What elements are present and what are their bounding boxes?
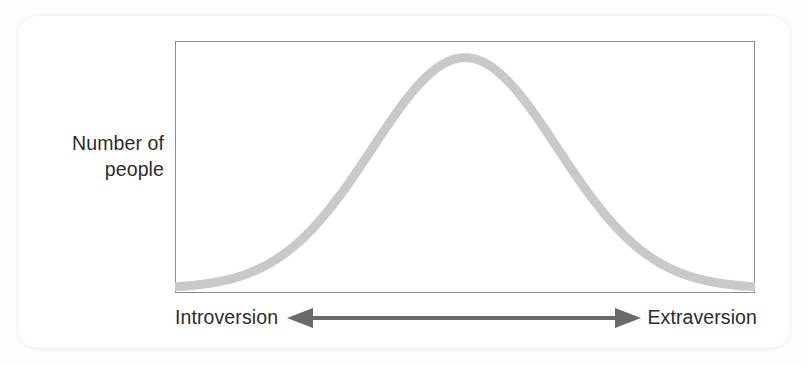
double-headed-arrow-icon bbox=[283, 305, 645, 331]
arrow-left-head-icon bbox=[287, 308, 313, 328]
extraversion-label: Extraversion bbox=[647, 303, 757, 331]
arrow-right-head-icon bbox=[615, 308, 641, 328]
y-axis-label: Number of people bbox=[42, 130, 164, 182]
figure-root: Number of people Introversion Extraversi… bbox=[0, 0, 807, 365]
bell-curve bbox=[175, 41, 755, 293]
x-axis-annotation-row: Introversion Extraversion bbox=[175, 303, 757, 333]
plot-area bbox=[175, 41, 755, 293]
introversion-label: Introversion bbox=[175, 303, 278, 331]
